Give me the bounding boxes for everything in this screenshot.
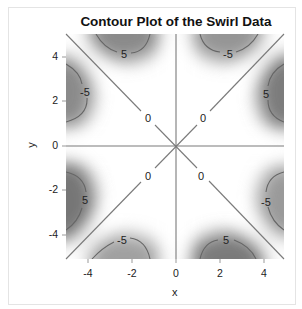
contour-label: 0 bbox=[200, 112, 206, 124]
contour-label: -5 bbox=[223, 48, 233, 60]
y-tick-label: 2 bbox=[36, 94, 58, 106]
contour-plot: 5 -5 -5 5 0 0 0 0 5 -5 -5 5 bbox=[0, 0, 302, 309]
contour-label: 5 bbox=[263, 88, 269, 100]
contour-label: 0 bbox=[198, 170, 204, 182]
y-tick-label: 0 bbox=[36, 139, 58, 151]
contour-label: 5 bbox=[121, 48, 127, 60]
contour-label: 5 bbox=[82, 194, 88, 206]
contour-label: 5 bbox=[223, 234, 229, 246]
y-axis-label: y bbox=[25, 142, 37, 148]
x-tick-label: 4 bbox=[252, 267, 276, 279]
y-tick-label: -4 bbox=[36, 228, 58, 240]
x-tick-label: -4 bbox=[76, 267, 100, 279]
x-tick-label: -2 bbox=[120, 267, 144, 279]
contour-label: -5 bbox=[261, 196, 271, 208]
contour-label: 0 bbox=[145, 112, 151, 124]
y-tick-label: -2 bbox=[36, 183, 58, 195]
y-tick-label: 4 bbox=[36, 50, 58, 62]
contour-label: 0 bbox=[145, 170, 151, 182]
contour-label: -5 bbox=[80, 86, 90, 98]
x-tick-label: 2 bbox=[208, 267, 232, 279]
contour-label: -5 bbox=[117, 234, 127, 246]
x-tick-label: 0 bbox=[164, 267, 188, 279]
x-axis-label: x bbox=[172, 286, 178, 298]
